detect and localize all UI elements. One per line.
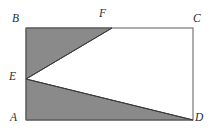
vertex-label-d: D <box>195 112 203 124</box>
vertex-label-b: B <box>12 13 19 25</box>
vertex-label-a: A <box>10 112 17 124</box>
vertex-label-f: F <box>99 8 106 20</box>
geometry-figure: B F C E A D <box>0 0 213 137</box>
figure-canvas <box>0 0 213 137</box>
vertex-label-e: E <box>9 71 16 83</box>
vertex-label-c: C <box>193 13 201 25</box>
